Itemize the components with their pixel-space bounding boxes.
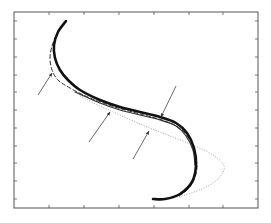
annotation-arrow bbox=[161, 86, 176, 117]
figure bbox=[0, 0, 271, 223]
plot-area bbox=[0, 0, 271, 223]
thin-solid-curve bbox=[75, 92, 195, 165]
dashed-curve bbox=[50, 36, 197, 199]
dotted-curve bbox=[80, 96, 224, 199]
annotation-arrow bbox=[133, 131, 149, 159]
annotation-arrow bbox=[38, 73, 52, 95]
annotation-arrow bbox=[89, 112, 110, 142]
curves bbox=[50, 21, 224, 199]
